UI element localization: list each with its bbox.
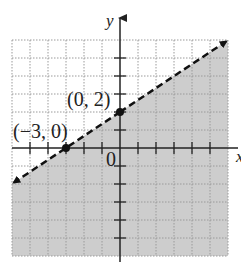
- point-label-0-2: (0, 2): [67, 88, 110, 111]
- origin-label: 0: [106, 148, 116, 170]
- y-axis-label: y: [104, 11, 114, 30]
- inequality-graph: y x 0 (0, 2) (−3, 0): [0, 0, 241, 267]
- point-label-neg3-0: (−3, 0): [13, 120, 68, 143]
- point-0-2: [116, 108, 124, 116]
- point-neg3-0: [62, 144, 70, 152]
- x-axis-label: x: [235, 147, 241, 166]
